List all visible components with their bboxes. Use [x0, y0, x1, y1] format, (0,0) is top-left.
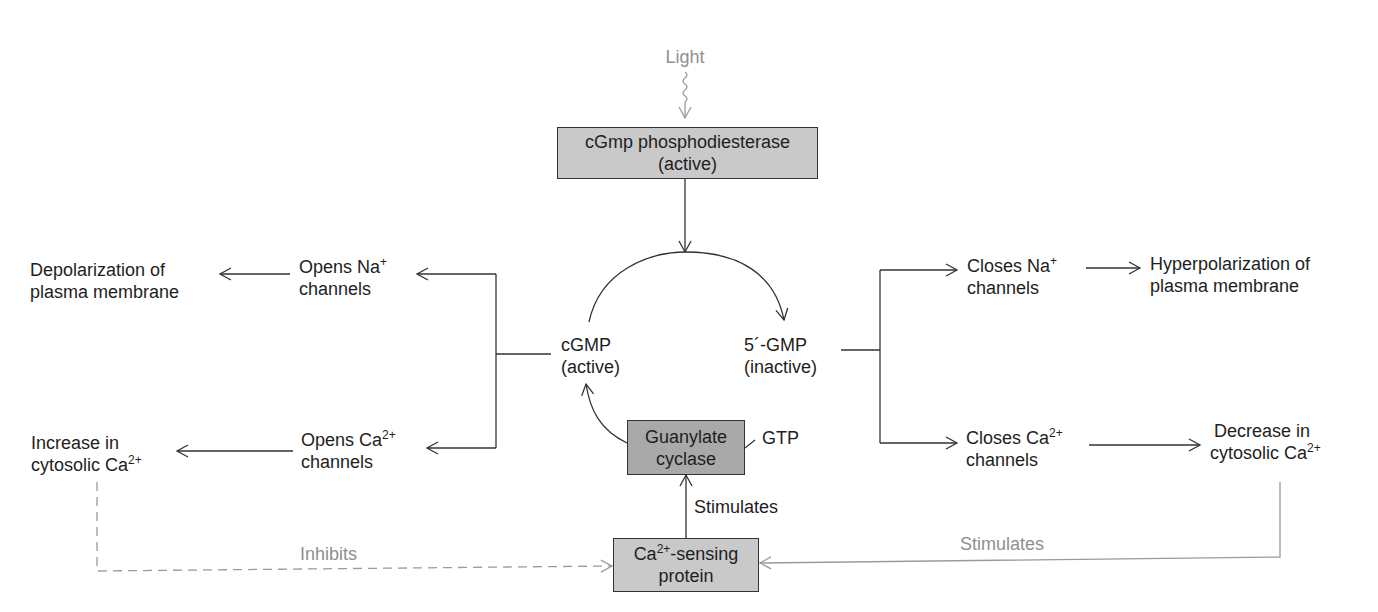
gmp5-label: 5´-GMP [744, 334, 817, 356]
pde-box: cGmp phosphodiesterase (active) [557, 127, 818, 179]
text: cytosolic Ca [1210, 443, 1307, 463]
ca-sensing-line2: protein [658, 565, 713, 587]
cgmp-node: cGMP (active) [561, 334, 620, 378]
cgmp-label: cGMP [561, 334, 620, 356]
ca-sensing-protein-box: Ca2+-sensing protein [613, 538, 759, 592]
synthesis-arc [586, 384, 627, 443]
gmp5-node: 5´-GMP (inactive) [744, 334, 817, 378]
guanylate-cyclase-box: Guanylate cyclase [627, 420, 745, 475]
line2: channels [301, 451, 396, 473]
stimulates-feedback-label: Stimulates [960, 533, 1044, 555]
text: Opens Ca [301, 430, 382, 450]
line2: plasma membrane [1150, 275, 1310, 297]
charge: + [380, 255, 387, 269]
charge: + [1050, 254, 1057, 268]
cgmp-state: (active) [561, 356, 620, 378]
charge: 2+ [1049, 426, 1063, 440]
closes-na-node: Closes Na+ channels [967, 255, 1057, 299]
connector-lines [0, 0, 1378, 612]
gtp-connector [745, 440, 755, 448]
gc-line1: Guanylate [645, 426, 727, 448]
phototransduction-diagram: Light cGmp phosphodiesterase (active) cG… [0, 0, 1378, 612]
rest: -sensing [670, 544, 738, 564]
gc-line2: cyclase [656, 448, 716, 470]
charge: 2+ [657, 542, 671, 556]
charge: 2+ [128, 453, 142, 467]
opens-ca-node: Opens Ca2+ channels [301, 429, 396, 473]
inhibits-label: Inhibits [300, 543, 357, 565]
line2: channels [966, 449, 1063, 471]
hydrolysis-arc [589, 252, 784, 322]
text: Closes Ca [966, 428, 1049, 448]
light-wave-arrow [683, 72, 687, 118]
line2: plasma membrane [30, 281, 179, 303]
line1: Increase in [31, 432, 142, 454]
line2: channels [967, 277, 1057, 299]
hyperpolarization-node: Hyperpolarization of plasma membrane [1150, 253, 1310, 297]
ca-sensing-line1: Ca2+-sensing [634, 543, 739, 565]
text: cytosolic Ca [31, 455, 128, 475]
text: Closes Na [967, 256, 1050, 276]
gmp5-state: (inactive) [744, 356, 817, 378]
line1: Decrease in [1210, 420, 1321, 442]
increase-ca-node: Increase in cytosolic Ca2+ [31, 432, 142, 476]
light-label: Light [660, 46, 710, 68]
depolarization-node: Depolarization of plasma membrane [30, 259, 179, 303]
decrease-ca-node: Decrease in cytosolic Ca2+ [1210, 420, 1321, 464]
pde-state: (active) [658, 153, 717, 175]
charge: 2+ [382, 428, 396, 442]
gtp-label: GTP [762, 427, 799, 449]
closes-ca-node: Closes Ca2+ channels [966, 427, 1063, 471]
ion: Ca [634, 544, 657, 564]
line1: Depolarization of [30, 259, 179, 281]
line2: channels [299, 278, 387, 300]
stimulates-gc-label: Stimulates [694, 496, 778, 518]
opens-na-node: Opens Na+ channels [299, 256, 387, 300]
charge: 2+ [1307, 441, 1321, 455]
pde-label: cGmp phosphodiesterase [585, 131, 790, 153]
text: Opens Na [299, 257, 380, 277]
line1: Hyperpolarization of [1150, 253, 1310, 275]
